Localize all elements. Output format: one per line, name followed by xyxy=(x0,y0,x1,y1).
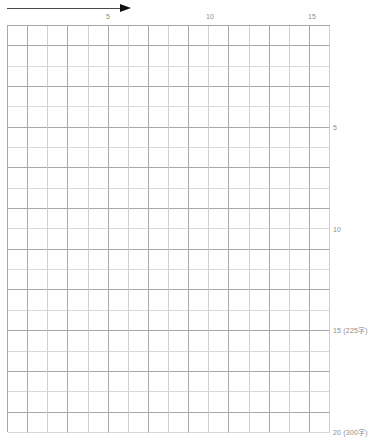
grid-cell[interactable] xyxy=(8,189,28,209)
grid-cell[interactable] xyxy=(270,250,290,270)
grid-cell[interactable] xyxy=(68,128,88,148)
grid-cell[interactable] xyxy=(129,331,149,351)
grid-cell[interactable] xyxy=(68,168,88,188)
grid-cell[interactable] xyxy=(89,331,109,351)
grid-cell[interactable] xyxy=(229,67,249,87)
grid-cell[interactable] xyxy=(8,392,28,412)
grid-cell[interactable] xyxy=(209,168,229,188)
grid-cell[interactable] xyxy=(270,392,290,412)
grid-cell[interactable] xyxy=(209,148,229,168)
grid-cell[interactable] xyxy=(48,311,68,331)
grid-cell[interactable] xyxy=(310,413,330,433)
grid-cell[interactable] xyxy=(89,67,109,87)
grid-cell[interactable] xyxy=(209,290,229,310)
grid-cell[interactable] xyxy=(48,290,68,310)
grid-cell[interactable] xyxy=(290,107,310,127)
grid-cell[interactable] xyxy=(89,209,109,229)
grid-cell[interactable] xyxy=(290,26,310,46)
grid-cell[interactable] xyxy=(189,87,209,107)
grid-cell[interactable] xyxy=(129,87,149,107)
grid-cell[interactable] xyxy=(129,128,149,148)
grid-cell[interactable] xyxy=(209,331,229,351)
grid-cell[interactable] xyxy=(8,128,28,148)
grid-cell[interactable] xyxy=(250,331,270,351)
grid-cell[interactable] xyxy=(109,87,129,107)
grid-cell[interactable] xyxy=(229,87,249,107)
grid-cell[interactable] xyxy=(229,107,249,127)
grid-cell[interactable] xyxy=(129,148,149,168)
grid-cell[interactable] xyxy=(229,372,249,392)
grid-cell[interactable] xyxy=(48,87,68,107)
grid-cell[interactable] xyxy=(149,311,169,331)
grid-cell[interactable] xyxy=(28,250,48,270)
grid-cell[interactable] xyxy=(169,128,189,148)
grid-cell[interactable] xyxy=(290,229,310,249)
grid-cell[interactable] xyxy=(28,46,48,66)
grid-cell[interactable] xyxy=(189,270,209,290)
grid-cell[interactable] xyxy=(250,46,270,66)
grid-cell[interactable] xyxy=(8,372,28,392)
grid-cell[interactable] xyxy=(48,46,68,66)
grid-cell[interactable] xyxy=(209,352,229,372)
grid-cell[interactable] xyxy=(169,209,189,229)
grid-cell[interactable] xyxy=(89,168,109,188)
grid-cell[interactable] xyxy=(209,311,229,331)
grid-cell[interactable] xyxy=(310,148,330,168)
grid-cell[interactable] xyxy=(129,168,149,188)
grid-cell[interactable] xyxy=(229,148,249,168)
grid-cell[interactable] xyxy=(169,311,189,331)
grid-cell[interactable] xyxy=(8,87,28,107)
grid-cell[interactable] xyxy=(89,250,109,270)
grid-cell[interactable] xyxy=(209,372,229,392)
grid-cell[interactable] xyxy=(290,311,310,331)
grid-cell[interactable] xyxy=(250,128,270,148)
grid-cell[interactable] xyxy=(129,209,149,229)
grid-cell[interactable] xyxy=(149,46,169,66)
grid-cell[interactable] xyxy=(290,128,310,148)
grid-cell[interactable] xyxy=(89,311,109,331)
grid-cell[interactable] xyxy=(189,229,209,249)
grid-cell[interactable] xyxy=(48,209,68,229)
grid-cell[interactable] xyxy=(149,128,169,148)
grid-cell[interactable] xyxy=(109,168,129,188)
grid-cell[interactable] xyxy=(270,413,290,433)
grid-cell[interactable] xyxy=(129,372,149,392)
grid-cell[interactable] xyxy=(270,229,290,249)
grid-cell[interactable] xyxy=(68,189,88,209)
grid-cell[interactable] xyxy=(250,413,270,433)
character-grid[interactable] xyxy=(7,25,330,432)
grid-cell[interactable] xyxy=(89,413,109,433)
grid-cell[interactable] xyxy=(189,413,209,433)
grid-cell[interactable] xyxy=(250,250,270,270)
grid-cell[interactable] xyxy=(250,209,270,229)
grid-cell[interactable] xyxy=(270,26,290,46)
grid-cell[interactable] xyxy=(189,352,209,372)
grid-cell[interactable] xyxy=(310,46,330,66)
grid-cell[interactable] xyxy=(169,290,189,310)
grid-cell[interactable] xyxy=(129,392,149,412)
grid-cell[interactable] xyxy=(28,128,48,148)
grid-cell[interactable] xyxy=(209,392,229,412)
grid-cell[interactable] xyxy=(270,107,290,127)
grid-cell[interactable] xyxy=(28,189,48,209)
grid-cell[interactable] xyxy=(250,168,270,188)
grid-cell[interactable] xyxy=(89,148,109,168)
grid-cell[interactable] xyxy=(290,168,310,188)
grid-cell[interactable] xyxy=(129,229,149,249)
grid-cell[interactable] xyxy=(310,311,330,331)
grid-cell[interactable] xyxy=(8,67,28,87)
grid-cell[interactable] xyxy=(310,290,330,310)
grid-cell[interactable] xyxy=(68,372,88,392)
grid-cell[interactable] xyxy=(189,290,209,310)
grid-cell[interactable] xyxy=(109,290,129,310)
grid-cell[interactable] xyxy=(129,46,149,66)
grid-cell[interactable] xyxy=(149,352,169,372)
grid-cell[interactable] xyxy=(89,107,109,127)
grid-cell[interactable] xyxy=(8,331,28,351)
grid-cell[interactable] xyxy=(28,413,48,433)
grid-cell[interactable] xyxy=(270,270,290,290)
grid-cell[interactable] xyxy=(229,392,249,412)
grid-cell[interactable] xyxy=(8,107,28,127)
grid-cell[interactable] xyxy=(310,67,330,87)
grid-cell[interactable] xyxy=(149,331,169,351)
